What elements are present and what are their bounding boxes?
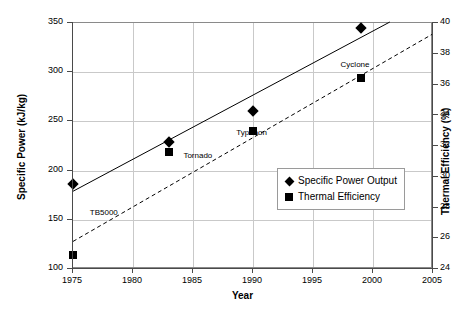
annotation-tornado: Tornado (183, 152, 212, 160)
legend-item[interactable]: Specific Power Output (283, 173, 397, 189)
y-axis-left-tick (67, 22, 72, 23)
y-axis-left-tick-label: 250 (31, 115, 63, 124)
x-axis-tick-label: 1995 (292, 276, 332, 285)
x-axis-tick-label: 2005 (412, 276, 452, 285)
y-axis-right-tick (433, 84, 438, 85)
diamond-icon (283, 178, 295, 185)
y-axis-right-tick-label: 24 (440, 263, 456, 272)
x-axis-tick-label: 1990 (232, 276, 272, 285)
y-axis-right-tick (433, 237, 438, 238)
y-axis-right-tick (433, 207, 438, 208)
y-axis-left-tick (67, 71, 72, 72)
x-axis-tick-label: 1980 (112, 276, 152, 285)
y-axis-right-tick (433, 22, 438, 23)
y-axis-left-tick-label: 100 (31, 263, 63, 272)
x-axis-tick (72, 268, 73, 273)
annotation-tb5000: TB5000 (90, 209, 118, 217)
x-axis-tick (252, 268, 253, 273)
x-axis-tick-label: 2000 (352, 276, 392, 285)
x-axis-tick (432, 268, 433, 273)
square-icon (283, 193, 295, 201)
y-axis-right-tick (433, 53, 438, 54)
y-axis-right-tick (433, 268, 438, 269)
annotation-cyclone: Cyclone (341, 61, 370, 69)
chart-legend: Specific Power OutputThermal Efficiency (277, 168, 405, 210)
plot-area: TB5000TornadoTyphoonCyclone (72, 22, 432, 268)
y-axis-left-tick (67, 170, 72, 171)
y-axis-left-tick (67, 120, 72, 121)
annotation-typhoon: Typhoon (236, 129, 267, 137)
y-axis-right-tick-label: 36 (440, 79, 456, 88)
x-axis-title: Year (20, 290, 456, 301)
legend-item-label: Thermal Efficiency (298, 192, 380, 202)
trendlines-layer (73, 23, 433, 269)
y-axis-left-tick (67, 219, 72, 220)
y-axis-right-tick-label: 38 (440, 48, 456, 57)
x-axis-tick (312, 268, 313, 273)
y-axis-right-tick (433, 176, 438, 177)
data-point-thermal-efficiency (69, 251, 77, 259)
x-axis-tick (372, 268, 373, 273)
y-axis-right-title: Thermal Efficiency (%) (440, 108, 451, 215)
y-axis-left-tick-label: 350 (31, 17, 63, 26)
legend-item[interactable]: Thermal Efficiency (283, 189, 397, 205)
y-axis-left-tick-label: 150 (31, 214, 63, 223)
y-axis-left-title: Specific Power (kJ/kg) (16, 94, 27, 200)
y-axis-right-tick-label: 40 (440, 17, 456, 26)
x-axis-tick-label: 1975 (52, 276, 92, 285)
y-axis-left-tick-label: 300 (31, 66, 63, 75)
data-point-thermal-efficiency (165, 148, 173, 156)
y-axis-right-tick (433, 114, 438, 115)
trendline-thermal-efficiency (73, 34, 433, 242)
x-axis-tick-label: 1985 (172, 276, 212, 285)
y-axis-left-tick-label: 200 (31, 165, 63, 174)
y-axis-right-tick-label: 26 (440, 232, 456, 241)
trendline-specific-power (73, 22, 390, 191)
x-axis-tick (132, 268, 133, 273)
data-point-thermal-efficiency (357, 74, 365, 82)
y-axis-left-line (72, 22, 73, 268)
legend-item-label: Specific Power Output (298, 176, 397, 186)
y-axis-right-tick (433, 145, 438, 146)
x-axis-tick (192, 268, 193, 273)
